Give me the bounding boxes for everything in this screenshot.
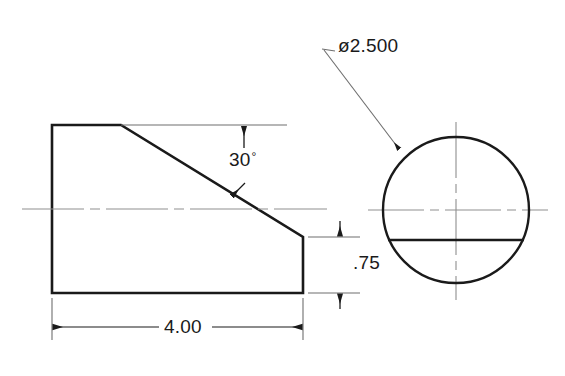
angle-dimension-value: 30 [229,149,251,170]
circular-view-group [368,122,548,300]
length-dimension-label: 4.00 [159,317,207,336]
drawing-vector-layer [0,0,565,376]
diameter-dimension-label: ø2.500 [338,36,398,55]
diameter-leader-line [324,50,399,149]
diameter-leader-group [322,49,399,149]
angle-dimension-group [121,125,287,196]
angle-arrow-lower [232,183,245,196]
engineering-drawing-canvas: 30° ø2.500 .75 4.00 [0,0,565,376]
degree-symbol: ° [252,150,257,164]
height-dimension-label: .75 [353,253,380,272]
angle-dimension-label: 30° [229,150,257,169]
